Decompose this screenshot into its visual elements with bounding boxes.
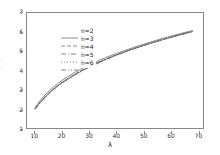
- legend-item: n=6: [61, 59, 94, 67]
- legend-item: n=4: [61, 43, 94, 51]
- x-tick-label: 10: [30, 133, 38, 139]
- legend-line-swatch: [61, 27, 78, 35]
- x-tick-label: 40: [113, 133, 121, 139]
- legend-label: n=5: [81, 52, 94, 58]
- legend-label: n=6: [81, 60, 94, 66]
- y-tick-mark: [20, 90, 23, 91]
- y-tick-mark: [20, 32, 23, 33]
- legend-line-swatch: [61, 59, 78, 67]
- legend-line-swatch: [61, 43, 78, 51]
- legend-label: n=2: [81, 28, 94, 34]
- chart-legend: n=2n=3n=4n=5n=6: [59, 26, 96, 68]
- x-axis-label: λ: [0, 141, 220, 149]
- x-tick-label: 30: [85, 133, 93, 139]
- legend-line-swatch: [61, 51, 78, 59]
- legend-label: n=3: [81, 36, 94, 42]
- legend-item: n=5: [61, 51, 94, 59]
- y-axis-ticks: 1234567: [8, 12, 23, 129]
- y-tick-mark: [20, 71, 23, 72]
- x-tick-label: 70: [195, 133, 203, 139]
- chart-figure: 1234567 E[C] n=2n=3n=4n=5n=6 10203040506…: [0, 0, 220, 155]
- x-tick-label: 60: [167, 133, 175, 139]
- x-tick-label: 20: [58, 133, 66, 139]
- y-tick-mark: [20, 129, 23, 130]
- y-tick-mark: [20, 110, 23, 111]
- x-tick-label: 50: [140, 133, 148, 139]
- plot-area: n=2n=3n=4n=5n=6: [26, 12, 204, 129]
- legend-label: n=4: [81, 44, 94, 50]
- legend-item: n=3: [61, 35, 94, 43]
- y-tick-mark: [20, 12, 23, 13]
- legend-line-swatch: [61, 35, 78, 43]
- legend-item: n=2: [61, 27, 94, 35]
- y-axis-label: E[C]: [0, 59, 1, 73]
- chart-lines: [27, 13, 203, 128]
- y-tick-mark: [20, 51, 23, 52]
